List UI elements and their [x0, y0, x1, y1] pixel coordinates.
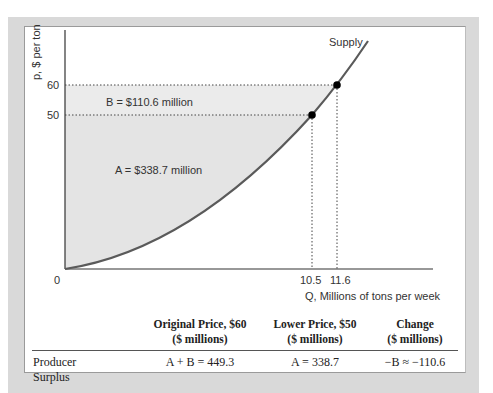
tick-105: 10.5: [300, 274, 321, 286]
header-lower: Lower Price, $50 ($ millions): [255, 317, 375, 347]
origin-label: 0: [54, 274, 60, 286]
y-axis-label: p, $ per ton: [30, 24, 42, 80]
row-label: Producer Surplus: [33, 355, 76, 385]
area-a: [65, 115, 312, 269]
cell-change: −B ≈ −110.6: [365, 355, 465, 370]
header-original: Original Price, $60 ($ millions): [135, 317, 265, 347]
cell-original: A + B = 449.3: [135, 355, 265, 370]
area-a-label: A = $338.7 million: [115, 164, 202, 176]
point-60: [333, 81, 341, 89]
area-b-label: B = $110.6 million: [106, 96, 193, 108]
header-change: Change ($ millions): [365, 317, 465, 347]
supply-label: Supply: [329, 36, 363, 48]
tick-50: 50: [47, 109, 59, 121]
tick-60: 60: [47, 79, 59, 91]
table-rule: [32, 350, 458, 351]
cell-lower: A = 338.7: [255, 355, 375, 370]
point-50: [308, 111, 316, 119]
x-axis-label: Q, Millions of tons per week: [305, 290, 441, 302]
tick-116: 11.6: [330, 274, 351, 286]
